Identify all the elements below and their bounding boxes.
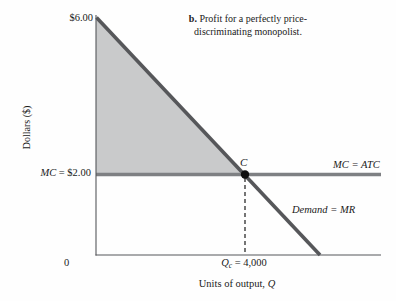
mc-price-abbrev: MC xyxy=(40,167,56,178)
x-axis-title-symbol: Q xyxy=(268,278,276,289)
figure-panel-b: b. Profit for a perfectly price- discrim… xyxy=(0,0,396,301)
origin-label: 0 xyxy=(64,256,69,269)
figure-title-prefix: b. xyxy=(189,13,197,24)
qc-symbol: Q xyxy=(221,257,229,268)
figure-title-text1: Profit for a perfectly price- xyxy=(197,13,307,24)
chart-canvas xyxy=(0,0,396,301)
demand-mr-curve-label: Demand = MR xyxy=(292,203,355,216)
x-axis-title: Units of output, Q xyxy=(167,277,307,290)
point-c-label: C xyxy=(240,156,247,169)
mc-atc-curve-label: MC = ATC xyxy=(333,158,380,171)
qc-tick-label: Qc = 4,000 xyxy=(204,256,284,269)
y-tick-6-dollars: $6.00 xyxy=(69,11,93,24)
qc-value: = 4,000 xyxy=(232,257,267,268)
point-c-dot xyxy=(241,170,249,178)
figure-title-text2: discriminating monopolist. xyxy=(185,26,311,39)
y-axis-title: Dollars ($) xyxy=(21,97,32,159)
mc-price-value: = $2.00 xyxy=(56,167,91,178)
figure-title: b. Profit for a perfectly price- discrim… xyxy=(185,13,311,38)
figure-title-line1: b. Profit for a perfectly price- xyxy=(185,13,311,26)
mc-price-label: MC = $2.00 xyxy=(40,166,91,179)
x-axis-title-text: Units of output, xyxy=(199,278,268,289)
